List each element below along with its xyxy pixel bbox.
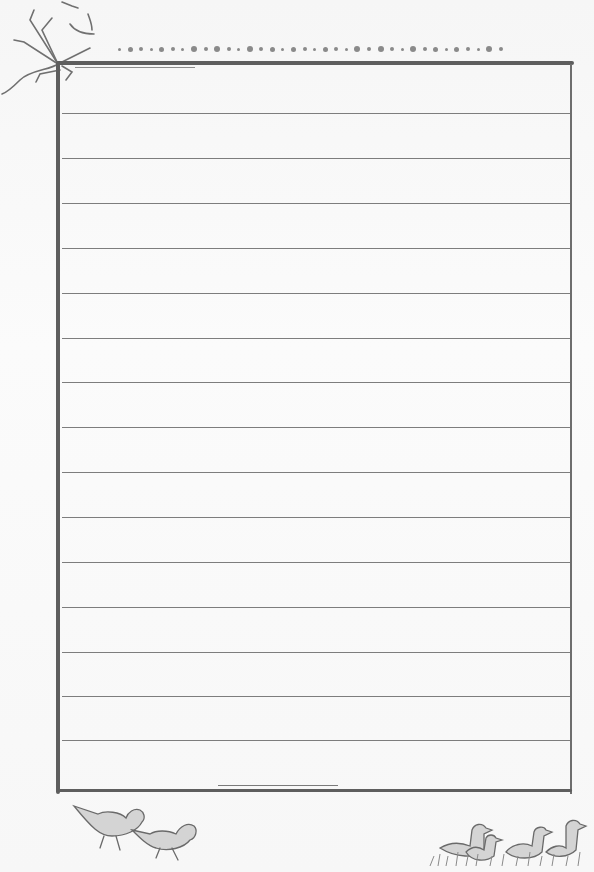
dot-icon: [159, 47, 164, 52]
dot-icon: [270, 47, 275, 52]
ruled-line: [62, 293, 570, 294]
walking-birds-icon: [0, 790, 594, 872]
ruled-line: [62, 472, 570, 473]
dot-icon: [237, 48, 240, 51]
dot-icon: [345, 48, 348, 51]
dot-icon: [334, 47, 338, 51]
dot-icon: [323, 47, 328, 52]
ruled-line: [62, 427, 570, 428]
dot-icon: [390, 47, 394, 51]
dot-icon: [181, 48, 184, 51]
dot-icon: [499, 47, 503, 51]
frame-bottom-inner-edge: [218, 785, 338, 786]
ruled-line: [62, 203, 570, 204]
frame-right-edge: [570, 64, 572, 794]
tree-branch-icon: [0, 0, 110, 110]
dot-icon: [401, 48, 404, 51]
dot-icon: [486, 46, 492, 52]
dot-icon: [303, 47, 307, 51]
dot-icon: [313, 48, 316, 51]
dot-icon: [378, 46, 384, 52]
ruled-line: [62, 517, 570, 518]
ruled-line: [62, 562, 570, 563]
dot-icon: [259, 47, 263, 51]
dot-icon: [291, 47, 296, 52]
ruled-line: [62, 382, 570, 383]
dot-icon: [247, 46, 253, 52]
dot-icon: [423, 47, 427, 51]
dot-icon: [171, 47, 175, 51]
ruled-line: [62, 248, 570, 249]
dot-icon: [204, 47, 208, 51]
dot-icon: [128, 47, 133, 52]
dot-icon: [139, 47, 143, 51]
dot-icon: [433, 47, 438, 52]
dot-icon: [367, 47, 371, 51]
dot-icon: [281, 48, 284, 51]
ruled-line: [62, 740, 570, 741]
ruled-line: [62, 338, 570, 339]
ruled-line: [62, 696, 570, 697]
dot-icon: [445, 48, 448, 51]
frame-inner-top-edge: [75, 67, 195, 68]
ruled-line: [62, 113, 570, 114]
frame-left-edge: [56, 61, 60, 794]
dot-icon: [410, 46, 416, 52]
dot-icon: [118, 48, 121, 51]
dot-border: [118, 42, 503, 56]
dot-icon: [466, 47, 470, 51]
dot-icon: [191, 46, 197, 52]
notepaper: [0, 0, 594, 872]
ruled-line: [62, 652, 570, 653]
dot-icon: [477, 48, 480, 51]
ruled-line: [62, 158, 570, 159]
dot-icon: [454, 47, 459, 52]
dot-icon: [227, 47, 231, 51]
dot-icon: [354, 46, 360, 52]
frame-top-edge: [57, 61, 574, 65]
dot-icon: [214, 46, 220, 52]
ruled-line: [62, 607, 570, 608]
dot-icon: [150, 48, 153, 51]
